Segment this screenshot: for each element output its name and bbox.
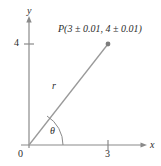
radius-ray (29, 44, 108, 145)
x-axis-label: x (150, 140, 154, 150)
radius-label: r (52, 81, 56, 91)
x-axis-arrowhead (141, 142, 148, 147)
origin-label: 0 (18, 149, 23, 159)
y-axis-tick-label-4: 4 (14, 38, 19, 48)
x-axis-tick-label-3: 3 (105, 149, 110, 159)
y-axis-arrowhead (26, 16, 31, 23)
point-label-p: P(3 ± 0.01, 4 ± 0.01) (58, 24, 142, 34)
angle-label: θ (50, 126, 55, 136)
point-marker-p (106, 42, 111, 47)
y-axis-label: y (27, 6, 31, 16)
polar-coordinates-diagram: y x 4 3 0 r θ P(3 ± 0.01, 4 ± 0.01) (0, 0, 161, 166)
